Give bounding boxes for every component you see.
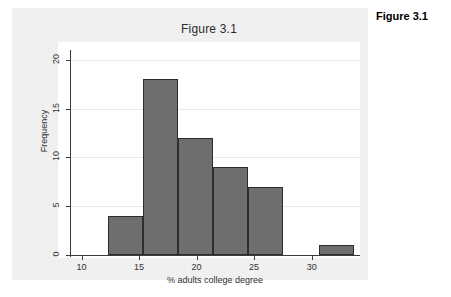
y-tick (66, 157, 70, 158)
x-tick-label: 30 (300, 262, 324, 272)
y-tick (66, 206, 70, 207)
gridline (70, 157, 360, 158)
x-axis-line (70, 255, 360, 256)
histogram-bar (319, 245, 354, 255)
x-tick (197, 256, 198, 260)
histogram-bar (178, 138, 213, 255)
gridline (70, 60, 360, 61)
y-tick-label: 10 (51, 146, 61, 166)
x-tick (139, 256, 140, 260)
gridline (70, 109, 360, 110)
y-tick-label: 15 (51, 98, 61, 118)
histogram-bar (248, 187, 283, 255)
plot-area (70, 48, 360, 255)
y-tick-label: 20 (51, 49, 61, 69)
y-axis-title: Frequency (39, 96, 49, 166)
histogram-bar (143, 79, 178, 255)
histogram-bar (108, 216, 143, 255)
x-axis-title: % adults college degree (70, 275, 360, 285)
y-axis-line (70, 50, 71, 257)
figure-panel: Figure 3.1 05101520 1015202530 Frequency… (12, 8, 368, 280)
y-tick-label: 5 (51, 195, 61, 215)
y-tick (66, 255, 70, 256)
x-tick-label: 25 (242, 262, 266, 272)
y-tick-label: 0 (51, 244, 61, 264)
x-tick (254, 256, 255, 260)
x-tick-label: 20 (185, 262, 209, 272)
chart-title: Figure 3.1 (58, 22, 360, 36)
x-tick (82, 256, 83, 260)
histogram-bar (213, 167, 248, 255)
y-tick (66, 60, 70, 61)
figure-screenshot: Figure 3.1 05101520 1015202530 Frequency… (0, 0, 451, 297)
y-tick (66, 109, 70, 110)
x-tick (312, 256, 313, 260)
figure-caption: Figure 3.1 (376, 10, 428, 22)
x-tick-label: 10 (70, 262, 94, 272)
x-tick-label: 15 (127, 262, 151, 272)
